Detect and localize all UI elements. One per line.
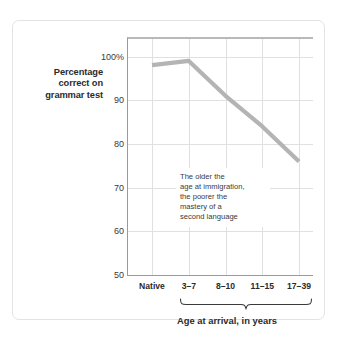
x-axis-tick-label: Native — [139, 281, 165, 291]
annotation-line: the poorer the — [180, 192, 266, 202]
data-series-line — [128, 39, 313, 275]
x-axis-tick-label: 8–10 — [216, 281, 235, 291]
y-axis-title-line: grammar test — [25, 90, 103, 101]
y-axis-tick-label: 80 — [114, 139, 124, 149]
y-axis-tick-label: 70 — [114, 183, 124, 193]
y-axis-title: Percentage correct on grammar test — [25, 67, 103, 101]
x-axis-title: Age at arrival, in years — [127, 315, 327, 326]
x-axis-tick-label: 3–7 — [182, 281, 196, 291]
x-axis-tick-label: 11–15 — [251, 281, 274, 291]
y-axis-tick-label: 90 — [114, 95, 124, 105]
y-axis-tick-label: 100% — [101, 52, 124, 62]
figure-card: Percentage correct on grammar test 50607… — [12, 20, 325, 320]
y-axis-tick-label: 60 — [114, 226, 124, 236]
x-axis-tick-label: 17–39 — [287, 281, 311, 291]
annotation-line: second language — [180, 212, 266, 222]
plot-area: 5060708090100% Native3–78–1011–1517–39 T… — [127, 37, 313, 276]
y-axis-title-line: Percentage — [25, 67, 103, 78]
y-axis-tick-label: 50 — [114, 270, 124, 280]
annotation-line: The older the — [180, 172, 266, 182]
y-axis-title-line: correct on — [25, 78, 103, 89]
annotation-line: age at immigration, — [180, 182, 266, 192]
annotation-line: mastery of a — [180, 202, 266, 212]
annotation-callout: The older the age at immigration, the po… — [176, 168, 270, 227]
age-group-brace — [179, 298, 313, 310]
